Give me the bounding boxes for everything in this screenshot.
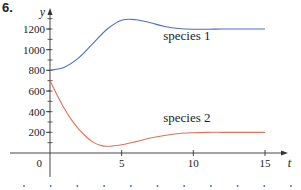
x-axis-arrow-icon [281,151,288,156]
axes: ty02004006008001000120051015 [10,5,292,177]
y-tick-label: 600 [29,85,46,97]
footer-dot [23,185,25,187]
footer-dot [130,185,132,187]
series-group [50,19,265,146]
footer-dot [103,185,105,187]
x-tick-label: 5 [119,157,125,169]
footer-dot [183,185,185,187]
footer-dot [157,185,159,187]
y-axis-label: y [39,5,46,19]
footer-dot [237,185,239,187]
y-tick-label: 1200 [23,23,46,35]
series-annotation: species 1 [163,28,210,43]
x-tick-label: 15 [260,157,272,169]
footer-dot [290,185,292,187]
footer-dot [210,185,212,187]
footer-dot [76,185,78,187]
footer-dot [263,185,265,187]
x-tick-label: 10 [188,157,200,169]
series-line-species-1 [50,19,265,70]
footer-dots [23,185,292,187]
y-axis-arrow-icon [48,8,53,15]
y-tick-label: 400 [29,106,46,118]
footer-dot [50,185,52,187]
y-tick-label: 800 [29,64,46,76]
x-axis-label: t [288,156,292,170]
line-chart: ty02004006008001000120051015 species 1sp… [0,0,301,190]
y-tick-label: 200 [29,126,46,138]
series-annotation: species 2 [163,110,210,125]
y-tick-label: 1000 [23,44,46,56]
series-labels: species 1species 2 [163,28,210,125]
series-line-species-2 [50,81,265,147]
origin-label: 0 [37,157,43,169]
